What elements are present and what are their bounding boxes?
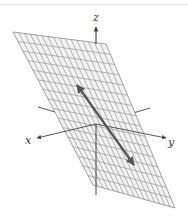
y-axis-label: y (167, 136, 175, 149)
plane-surface (13, 32, 175, 208)
x-axis-label: x (25, 134, 32, 147)
plane-diagram: z x y (0, 0, 188, 219)
z-axis-label: z (92, 11, 99, 24)
